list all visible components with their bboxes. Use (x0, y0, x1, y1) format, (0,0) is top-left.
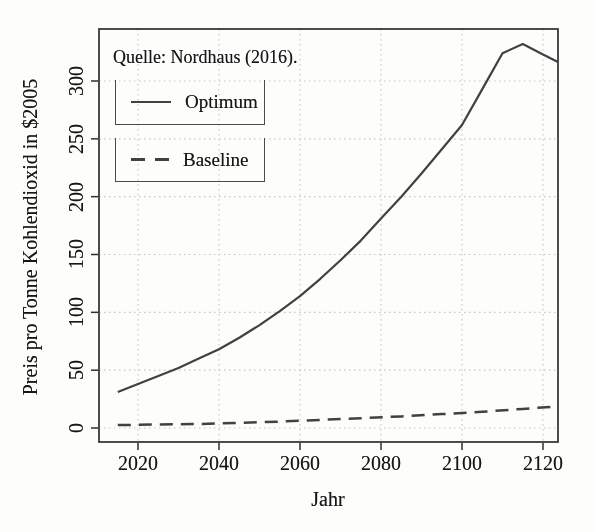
x-tick-label: 2100 (442, 452, 482, 475)
legend-label-baseline: Baseline (183, 149, 248, 171)
y-tick-label: 0 (65, 423, 88, 433)
y-tick-label: 50 (65, 360, 88, 380)
x-tick-label: 2040 (199, 452, 239, 475)
legend-entry-baseline: Baseline (115, 138, 265, 182)
optimum-line-swatch (131, 101, 171, 104)
legend-entry-optimum: Optimum (115, 80, 265, 125)
x-axis-title: Jahr (311, 488, 344, 511)
x-tick-label: 2080 (361, 452, 401, 475)
y-tick-label: 300 (65, 66, 88, 96)
x-tick-label: 2120 (523, 452, 563, 475)
y-axis-title: Preis pro Tonne Kohlendioxid in $2005 (19, 79, 42, 396)
series-baseline-line (118, 406, 564, 425)
y-tick-label: 250 (65, 124, 88, 154)
legend-label-optimum: Optimum (185, 91, 258, 113)
x-tick-label: 2060 (280, 452, 320, 475)
y-tick-label: 100 (65, 297, 88, 327)
y-tick-label: 200 (65, 182, 88, 212)
y-tick-label: 150 (65, 239, 88, 269)
x-tick-label: 2020 (118, 452, 158, 475)
carbon-price-chart: Quelle: Nordhaus (2016). Optimum Baselin… (0, 0, 596, 532)
baseline-line-swatch (131, 158, 169, 161)
source-note: Quelle: Nordhaus (2016). (113, 47, 297, 68)
